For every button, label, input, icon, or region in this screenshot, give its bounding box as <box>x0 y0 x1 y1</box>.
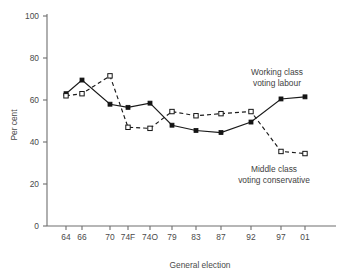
y-tick-label: 40 <box>30 137 40 147</box>
data-point-marker <box>148 101 152 105</box>
working-class-label: Working class <box>251 67 303 77</box>
y-tick-label: 60 <box>30 95 40 105</box>
data-point-marker <box>64 94 68 98</box>
data-point-marker <box>303 151 307 155</box>
data-point-marker <box>80 92 84 96</box>
data-point-marker <box>126 125 130 129</box>
x-tick-label: 01 <box>300 232 310 242</box>
data-point-marker <box>249 109 253 113</box>
x-tick-label: 66 <box>77 232 87 242</box>
x-tick-label: 74F <box>121 232 135 242</box>
y-tick-label: 80 <box>30 53 40 63</box>
middle-class-label: Middle class <box>251 164 297 174</box>
line-chart-plot: 020406080100 64667074F74O798387929701 Wo… <box>0 0 348 278</box>
x-tick-label: 92 <box>246 232 256 242</box>
x-axis-title: General election <box>170 260 231 270</box>
x-tick-label: 79 <box>167 232 177 242</box>
x-tick-label: 70 <box>105 232 115 242</box>
data-point-marker <box>219 131 223 135</box>
data-point-marker <box>249 120 253 124</box>
data-point-marker <box>194 114 198 118</box>
data-point-marker <box>303 95 307 99</box>
x-tick-label: 83 <box>191 232 201 242</box>
data-point-marker <box>80 78 84 82</box>
middle-class-label: voting conservative <box>238 175 310 185</box>
x-axis-ticks: 64667074F74O798387929701 <box>61 226 310 242</box>
y-tick-label: 20 <box>30 179 40 189</box>
x-tick-label: 74O <box>142 232 158 242</box>
data-point-marker <box>148 126 152 130</box>
x-tick-label: 64 <box>61 232 71 242</box>
data-point-marker <box>194 128 198 132</box>
working-class-label: voting labour <box>253 78 301 88</box>
y-tick-label: 0 <box>34 221 39 231</box>
chart-container: 020406080100 64667074F74O798387929701 Wo… <box>0 0 348 278</box>
x-tick-label: 87 <box>216 232 226 242</box>
data-point-marker <box>219 111 223 115</box>
chart-annotations: Working classvoting labourMiddle classvo… <box>238 67 310 185</box>
data-point-marker <box>279 97 283 101</box>
data-point-marker <box>279 149 283 153</box>
chart-axes <box>47 14 336 226</box>
data-point-marker <box>108 74 112 78</box>
data-point-marker <box>108 102 112 106</box>
x-tick-label: 97 <box>276 232 286 242</box>
data-point-marker <box>170 109 174 113</box>
y-axis-ticks: 020406080100 <box>25 11 47 231</box>
y-axis-title: Per cent <box>9 109 19 141</box>
data-point-marker <box>126 105 130 109</box>
y-tick-label: 100 <box>25 11 39 21</box>
data-point-marker <box>170 123 174 127</box>
